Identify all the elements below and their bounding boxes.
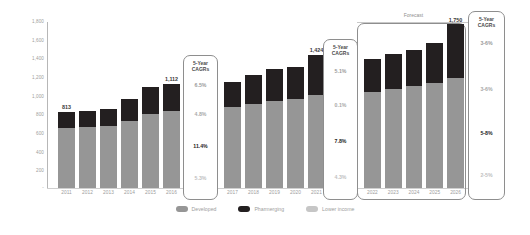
segment-pharmerging-2015 bbox=[142, 87, 159, 114]
segment-pharmerging-2023 bbox=[385, 54, 402, 89]
x-label-2025: 2025 bbox=[429, 190, 440, 195]
legend-swatch-developed-icon bbox=[176, 206, 188, 212]
chart-legend: Developed Pharmerging Lower income bbox=[0, 206, 530, 212]
bar-slot-2015[interactable]: 2015 bbox=[142, 20, 159, 188]
y-tick-1200: 1,200 bbox=[0, 76, 44, 81]
x-label-2015: 2015 bbox=[145, 190, 156, 195]
bar-value-2021: 1,424 bbox=[310, 47, 324, 53]
bar-slot-2016[interactable]: 1,112 2016 bbox=[163, 20, 180, 188]
segment-pharmerging-2018 bbox=[245, 75, 262, 104]
bar-slot-2017[interactable]: 2017 bbox=[224, 20, 241, 188]
segment-pharmerging-2024 bbox=[406, 50, 423, 86]
x-label-2024: 2024 bbox=[409, 190, 420, 195]
bar-slot-2019[interactable]: 2019 bbox=[266, 20, 283, 188]
segment-developed-2017 bbox=[224, 107, 241, 188]
bar-stack-2018 bbox=[245, 75, 262, 188]
legend-item-lower-income[interactable]: Lower income bbox=[306, 206, 354, 212]
cagr-lower-income-2021-2026: 2-5% bbox=[469, 172, 504, 178]
bar-slot-2025[interactable]: 2025 bbox=[426, 20, 443, 188]
segment-developed-2023 bbox=[385, 89, 402, 188]
segment-developed-2013 bbox=[100, 126, 117, 188]
cagr-title-line2: CAGRs bbox=[192, 66, 210, 72]
cagr-lower-income-2011-2016: 5.3% bbox=[184, 175, 217, 181]
legend-swatch-pharmerging-icon bbox=[238, 206, 250, 212]
x-label-2018: 2018 bbox=[248, 190, 259, 195]
segment-developed-2025 bbox=[426, 83, 443, 188]
segment-developed-2016 bbox=[163, 111, 180, 189]
plot-area: 813 2011 2012 2013 bbox=[48, 20, 480, 188]
bar-slot-2012[interactable]: 2012 bbox=[79, 20, 96, 188]
bar-stack-2019 bbox=[266, 69, 283, 188]
segment-developed-2020 bbox=[287, 99, 304, 188]
bar-stack-2014 bbox=[121, 99, 138, 188]
bar-slot-2014[interactable]: 2014 bbox=[121, 20, 138, 188]
bar-stack-2023 bbox=[385, 54, 402, 188]
y-tick-1800: 1,800 bbox=[0, 20, 44, 25]
x-label-2019: 2019 bbox=[269, 190, 280, 195]
bar-stack-2013 bbox=[100, 109, 117, 188]
y-tick-200: 200 bbox=[0, 169, 44, 174]
segment-pharmerging-2019 bbox=[266, 69, 283, 101]
x-label-2012: 2012 bbox=[82, 190, 93, 195]
legend-label-developed: Developed bbox=[192, 206, 217, 212]
y-tick-400: 400 bbox=[0, 151, 44, 156]
bar-stack-2016 bbox=[163, 84, 180, 188]
bar-stack-2017 bbox=[224, 82, 241, 188]
cagr-total-2016-2021: 5.1% bbox=[324, 68, 357, 74]
bar-stack-2026 bbox=[447, 24, 464, 188]
x-label-2016: 2016 bbox=[166, 190, 177, 195]
segment-pharmerging-2025 bbox=[426, 43, 443, 83]
bar-slot-2020[interactable]: 2020 bbox=[287, 20, 304, 188]
segment-developed-2019 bbox=[266, 101, 283, 188]
bar-slot-2013[interactable]: 2013 bbox=[100, 20, 117, 188]
segment-developed-2011 bbox=[58, 128, 75, 188]
cagr-developed-2011-2016: 4.8% bbox=[184, 111, 217, 117]
x-label-2021: 2021 bbox=[311, 190, 322, 195]
y-tick-1600: 1,600 bbox=[0, 39, 44, 44]
segment-pharmerging-2013 bbox=[100, 109, 117, 126]
legend-item-developed[interactable]: Developed bbox=[176, 206, 217, 212]
cagr-title-line2: CAGRs bbox=[478, 22, 496, 28]
bar-slot-2022[interactable]: 2022 bbox=[364, 20, 381, 188]
bar-panel-historical-2: 2017 2018 2019 bbox=[224, 20, 330, 188]
bar-slot-2026[interactable]: 1,750 -1,780 2026 bbox=[447, 20, 464, 188]
x-label-2022: 2022 bbox=[367, 190, 378, 195]
bar-slot-2023[interactable]: 2023 bbox=[385, 20, 402, 188]
x-label-2011: 2011 bbox=[61, 190, 72, 195]
x-label-2020: 2020 bbox=[290, 190, 301, 195]
bar-slot-2024[interactable]: 2024 bbox=[406, 20, 423, 188]
bar-stack-2015 bbox=[142, 87, 159, 188]
legend-swatch-lower-income-icon bbox=[306, 206, 318, 212]
segment-pharmerging-2011 bbox=[58, 112, 75, 128]
cagr-title-line2: CAGRs bbox=[332, 50, 350, 56]
bar-stack-2024 bbox=[406, 50, 423, 188]
cagr-total-2021-2026: 3-6% bbox=[469, 40, 504, 46]
legend-label-lower-income: Lower income bbox=[322, 206, 354, 212]
bar-slot-2018[interactable]: 2018 bbox=[245, 20, 262, 188]
bar-value-2026-line1: 1,750 bbox=[449, 17, 463, 23]
segment-pharmerging-2012 bbox=[79, 111, 96, 127]
segment-pharmerging-2014 bbox=[121, 99, 138, 121]
cagr-total-2011-2016: 6.5% bbox=[184, 82, 217, 88]
segment-pharmerging-2020 bbox=[287, 67, 304, 99]
segment-developed-2024 bbox=[406, 86, 423, 188]
segment-developed-2012 bbox=[79, 127, 96, 188]
bar-slot-2011[interactable]: 813 2011 bbox=[58, 20, 75, 188]
legend-item-pharmerging[interactable]: Pharmerging bbox=[238, 206, 284, 212]
x-label-2013: 2013 bbox=[103, 190, 114, 195]
y-tick-zero: - bbox=[0, 186, 44, 191]
x-label-2017: 2017 bbox=[227, 190, 238, 195]
cagr-box-2016-2021[interactable]: 5-Year CAGRs 5.1% 0.1% 7.8% 4.3% bbox=[323, 39, 358, 200]
segment-pharmerging-2016 bbox=[163, 84, 180, 110]
x-label-2026: 2026 bbox=[450, 190, 461, 195]
legend-label-pharmerging: Pharmerging bbox=[254, 206, 284, 212]
segment-developed-2014 bbox=[121, 121, 138, 188]
segment-pharmerging-2022 bbox=[364, 59, 381, 92]
cagr-box-2011-2016[interactable]: 5-Year CAGRs 6.5% 4.8% 11.4% 5.3% bbox=[183, 55, 218, 200]
cagr-developed-2021-2026: 3-6% bbox=[469, 86, 504, 92]
bar-stack-2012 bbox=[79, 111, 96, 188]
x-label-2023: 2023 bbox=[388, 190, 399, 195]
y-tick-800: 800 bbox=[0, 113, 44, 118]
cagr-box-2021-2026[interactable]: 5-Year CAGRs 3-6% 3-6% 5-8% 2-5% bbox=[468, 11, 505, 200]
cagr-lower-income-2016-2021: 4.3% bbox=[324, 174, 357, 180]
